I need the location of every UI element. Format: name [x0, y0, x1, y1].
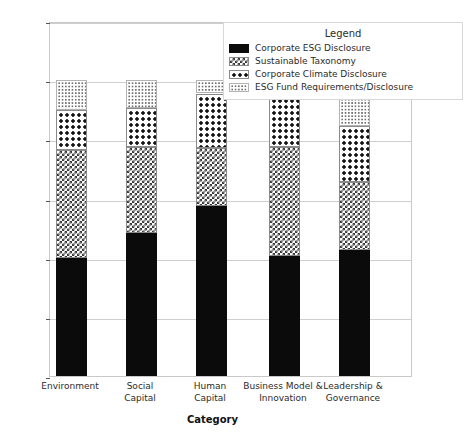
solid-black-swatch: [229, 44, 249, 53]
bar-segment[interactable]: [196, 206, 227, 376]
x-tick-label: Business Model &Innovation: [243, 381, 322, 404]
legend-entry[interactable]: ESG Fund Requirements/Disclosure: [229, 81, 457, 94]
legend-label: Sustainable Taxonomy: [255, 56, 356, 66]
bar-segment[interactable]: [339, 182, 370, 250]
legend-entry[interactable]: Corporate Climate Disclosure: [229, 68, 457, 81]
fine-dots-swatch: [229, 83, 249, 92]
bar-segment[interactable]: [126, 80, 157, 108]
bar-segment[interactable]: [126, 147, 157, 233]
x-tick-label: Environment: [41, 381, 98, 393]
legend: Legend Corporate ESG DisclosureSustainab…: [223, 22, 463, 100]
y-tick-mark: [46, 82, 50, 83]
bar-segment[interactable]: [126, 233, 157, 376]
bar-segment[interactable]: [196, 94, 227, 149]
x-tick-label: HumanCapital: [194, 381, 226, 404]
bar-stack[interactable]: [56, 21, 87, 376]
bold-dots-swatch: [229, 70, 249, 79]
y-tick-mark: [46, 201, 50, 202]
legend-entry[interactable]: Sustainable Taxonomy: [229, 55, 457, 68]
cross-hatch-swatch: [229, 57, 249, 66]
y-tick-mark: [46, 141, 50, 142]
bar-segment[interactable]: [196, 148, 227, 206]
bar-segment[interactable]: [196, 80, 227, 93]
bar-segment[interactable]: [339, 250, 370, 376]
y-tick-mark: [46, 378, 50, 379]
legend-label: Corporate Climate Disclosure: [255, 69, 387, 79]
bar-stack[interactable]: [196, 21, 227, 376]
x-tick-label: Leadership &Governance: [323, 381, 382, 404]
legend-label: ESG Fund Requirements/Disclosure: [255, 82, 413, 92]
legend-title: Legend: [229, 28, 457, 39]
bar-segment[interactable]: [339, 126, 370, 182]
plot-area: 0.00.20.40.60.81.01.2 Legend Corporate E…: [49, 22, 412, 377]
y-tick-mark: [46, 23, 50, 24]
bar-stack[interactable]: [126, 21, 157, 376]
bar-segment[interactable]: [56, 150, 87, 258]
legend-entry[interactable]: Corporate ESG Disclosure: [229, 42, 457, 55]
bar-segment[interactable]: [56, 258, 87, 376]
bar-segment[interactable]: [269, 147, 300, 256]
y-tick-mark: [46, 260, 50, 261]
bar-segment[interactable]: [56, 80, 87, 110]
x-tick-label: SocialCapital: [124, 381, 156, 404]
bar-segment[interactable]: [269, 256, 300, 376]
legend-label: Corporate ESG Disclosure: [255, 43, 371, 53]
bar-segment[interactable]: [126, 108, 157, 146]
legend-entries: Corporate ESG DisclosureSustainable Taxo…: [229, 42, 457, 94]
y-tick-mark: [46, 319, 50, 320]
x-axis-title: Category: [0, 414, 425, 425]
bar-segment[interactable]: [56, 110, 87, 150]
